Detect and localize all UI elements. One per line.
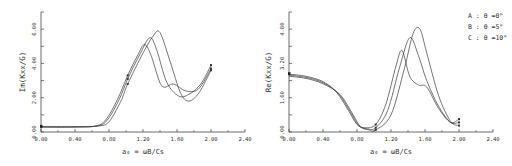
x-tick-label: 2.40 [238,136,251,142]
y-axis-label: Re(Kxx/G) [264,52,273,93]
series-marker [375,129,377,131]
legend-item-c: C : θ =10° [468,33,507,44]
series-marker [458,121,460,123]
series-marker [458,118,460,120]
series-marker [458,125,460,127]
y-tick-label: 0.00 [31,125,37,138]
x-tick-label: 1.60 [170,136,183,142]
series-marker [210,68,212,70]
im-kxx-plot: 0.000.400.801.201.602.002.400.002.004.00… [0,0,256,166]
x-tick-label: 0.40 [68,136,81,142]
legend-item-b: B : θ =5° [468,22,507,33]
legend: A : θ =0° B : θ =5° C : θ =10° [468,11,507,44]
x-axis-label: a₀ = ωB/Cs [370,148,412,156]
y-tick-label: 4.00 [31,57,37,70]
series-marker [210,64,212,66]
series-marker [288,72,291,75]
series-marker [210,69,212,71]
x-tick-label: 1.20 [136,136,149,142]
x-tick-label: 0.80 [102,136,115,142]
x-tick-label: 1.20 [384,136,397,142]
series-line-b [41,38,211,127]
y-tick-label: 1.60 [279,91,285,104]
series-marker [127,83,129,85]
y-tick-label: 6.00 [31,23,37,36]
y-tick-label: 3.20 [279,57,285,70]
legend-item-a: A : θ =0° [468,11,507,22]
x-tick-label: 2.00 [452,136,465,142]
x-axis-label: a₀ = ωB/Cs [122,148,164,156]
im-kxx-chart: 0.000.400.801.201.602.002.400.002.004.00… [0,0,256,166]
series-marker [127,74,129,76]
y-axis-label: Im(Kxx/G) [18,52,27,93]
series-line-a [41,45,211,127]
series-marker [127,78,129,80]
x-tick-label: 1.60 [418,136,431,142]
y-tick-label: 0.00 [279,125,285,138]
series-marker [375,124,377,126]
x-tick-label: 2.00 [204,136,217,142]
series-marker [40,125,43,128]
series-line-b [289,37,459,129]
x-tick-label: 0.80 [350,136,363,142]
x-tick-label: 0.40 [316,136,329,142]
series-marker [375,127,377,129]
series-line-a [289,50,459,127]
x-tick-label: 2.40 [486,136,499,142]
y-tick-label: 2.00 [31,91,37,104]
y-tick-label: 4.80 [279,23,285,36]
